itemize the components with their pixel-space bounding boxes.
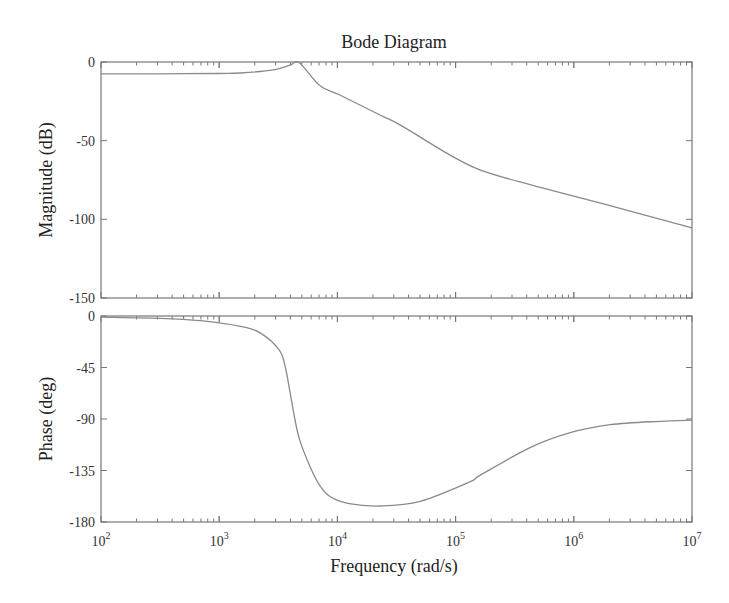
y-tick-label: -180 [69, 515, 95, 530]
y-tick-label: 0 [88, 309, 95, 324]
magnitude-plot-frame [101, 62, 692, 298]
magnitude-curve [101, 62, 692, 228]
y-tick-label: -45 [76, 361, 95, 376]
x-tick-label: 102 [92, 530, 111, 549]
y-tick-label: -50 [76, 134, 95, 149]
chart-title: Bode Diagram [341, 32, 446, 52]
y-tick-label: -135 [69, 464, 95, 479]
x-tick-label: 107 [683, 530, 702, 549]
y-tick-label: -150 [69, 291, 95, 306]
magnitude-panel: 0-50-100-150 Magnitude (dB) [36, 55, 692, 306]
magnitude-y-axis-label: Magnitude (dB) [36, 122, 57, 237]
magnitude-y-ticks: 0-50-100-150 [69, 55, 692, 306]
y-tick-label: -100 [69, 212, 95, 227]
x-tick-label: 104 [328, 530, 347, 549]
bode-diagram-chart: Bode Diagram 0-50-100-150 Magnitude (dB)… [0, 0, 729, 603]
x-tick-label: 106 [564, 530, 583, 549]
x-tick-label: 103 [210, 530, 229, 549]
x-axis-label: Frequency (rad/s) [330, 556, 457, 577]
magnitude-x-ticks [101, 62, 692, 298]
phase-curve [101, 317, 692, 506]
x-axis-tick-labels: 102103104105106107 [92, 530, 702, 549]
y-tick-label: -90 [76, 412, 95, 427]
x-tick-label: 105 [446, 530, 465, 549]
y-tick-label: 0 [88, 55, 95, 70]
phase-y-axis-label: Phase (deg) [36, 377, 57, 461]
phase-x-ticks [101, 316, 692, 522]
phase-y-ticks: 0-45-90-135-180 [69, 309, 692, 530]
phase-panel: 0-45-90-135-180 Phase (deg) [36, 309, 692, 530]
phase-plot-frame [101, 316, 692, 522]
